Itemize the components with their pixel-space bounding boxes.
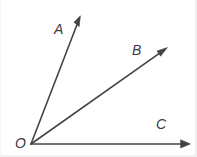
label-point-a: A xyxy=(54,22,63,36)
label-point-b: B xyxy=(132,43,141,57)
canvas-edge-bottom xyxy=(0,155,197,157)
canvas-edge-right xyxy=(195,0,197,157)
ray-ob xyxy=(31,48,167,144)
canvas-edge-left xyxy=(0,0,1,157)
ray-oc-arrowhead xyxy=(181,140,191,148)
ray-oc xyxy=(31,140,190,148)
label-point-c: C xyxy=(156,117,166,131)
ray-oa-arrowhead xyxy=(74,16,80,27)
ray-oa-line xyxy=(31,22,78,145)
label-vertex-o: O xyxy=(15,136,26,150)
angle-figure: A B C O xyxy=(0,0,197,157)
ray-ob-line xyxy=(31,51,163,144)
rays-canvas xyxy=(0,0,197,157)
